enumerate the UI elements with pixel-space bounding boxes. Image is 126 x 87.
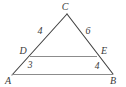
vertex-label-C: C xyxy=(62,1,69,12)
angle-label-4: 4 xyxy=(95,61,100,71)
segment-CB xyxy=(67,14,113,74)
diagram-canvas: C A B D E 4 6 3 4 xyxy=(0,0,126,87)
vertex-label-D: D xyxy=(18,45,27,56)
vertex-label-A: A xyxy=(4,75,12,86)
angle-label-3: 3 xyxy=(27,60,33,70)
vertex-label-B: B xyxy=(110,75,116,86)
geometry-diagram: C A B D E 4 6 3 4 xyxy=(0,0,126,87)
vertex-label-E: E xyxy=(100,45,107,56)
side-label-CE: 6 xyxy=(86,25,91,36)
side-label-CD: 4 xyxy=(38,25,43,36)
